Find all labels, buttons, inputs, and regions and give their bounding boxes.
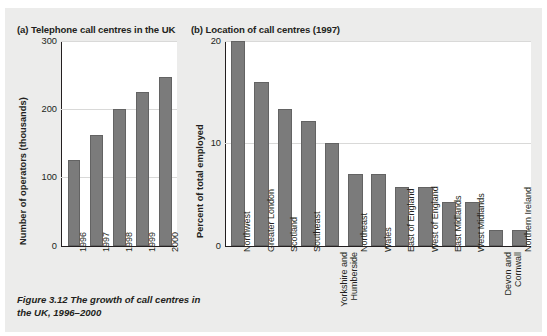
x-tick-label: Northeast bbox=[359, 213, 369, 252]
x-tick-label: Wales bbox=[383, 227, 393, 252]
bar bbox=[136, 92, 149, 245]
x-tick-label: Greater London bbox=[266, 189, 276, 252]
bar bbox=[159, 77, 172, 245]
bar bbox=[325, 143, 340, 245]
panel-b-title: (b) Location of call centres (1997) bbox=[191, 24, 340, 35]
x-tick-label: Northern Ireland bbox=[523, 187, 533, 252]
x-tick-label: West of England bbox=[430, 186, 440, 252]
x-tick-label: Scotland bbox=[289, 217, 299, 252]
figure-panel: (a) Telephone call centres in the UK Num… bbox=[5, 8, 542, 332]
x-tick-label: Devon and Cornwall bbox=[503, 252, 523, 308]
y-tick-label: 20 bbox=[195, 36, 221, 46]
y-tick-label: 200 bbox=[27, 104, 57, 114]
panel-a-y-axis-label: Number of operators (thousands) bbox=[18, 97, 28, 245]
x-tick-label: 1996 bbox=[78, 232, 88, 252]
x-tick-label: 2000 bbox=[170, 232, 180, 252]
x-tick-label: Southeast bbox=[312, 211, 322, 252]
x-tick-label: Yorkshire and Humberside bbox=[339, 252, 359, 308]
panel-a-y-axis-line bbox=[61, 41, 62, 247]
gridline bbox=[225, 143, 531, 144]
panel-a-title: (a) Telephone call centres in the UK bbox=[17, 24, 175, 35]
x-tick-label: East of England bbox=[406, 188, 416, 252]
bar bbox=[90, 135, 103, 245]
bar bbox=[113, 109, 126, 245]
y-tick-label: 300 bbox=[27, 36, 57, 46]
x-tick-label: Northwest bbox=[242, 211, 252, 252]
gridline bbox=[225, 41, 531, 42]
figure-caption: Figure 3.12 The growth of call centres i… bbox=[17, 294, 217, 319]
x-tick-label: 1998 bbox=[124, 232, 134, 252]
y-tick-label: 0 bbox=[195, 241, 221, 251]
x-tick-label: West Midlands bbox=[476, 193, 486, 252]
gridline bbox=[61, 41, 177, 42]
x-tick-label: 1999 bbox=[147, 232, 157, 252]
x-tick-label: 1997 bbox=[101, 232, 111, 252]
y-tick-label: 0 bbox=[27, 241, 57, 251]
bar bbox=[489, 230, 504, 245]
x-tick-label: East Midlands bbox=[453, 195, 463, 252]
y-tick-label: 100 bbox=[27, 172, 57, 182]
y-tick-label: 10 bbox=[195, 138, 221, 148]
